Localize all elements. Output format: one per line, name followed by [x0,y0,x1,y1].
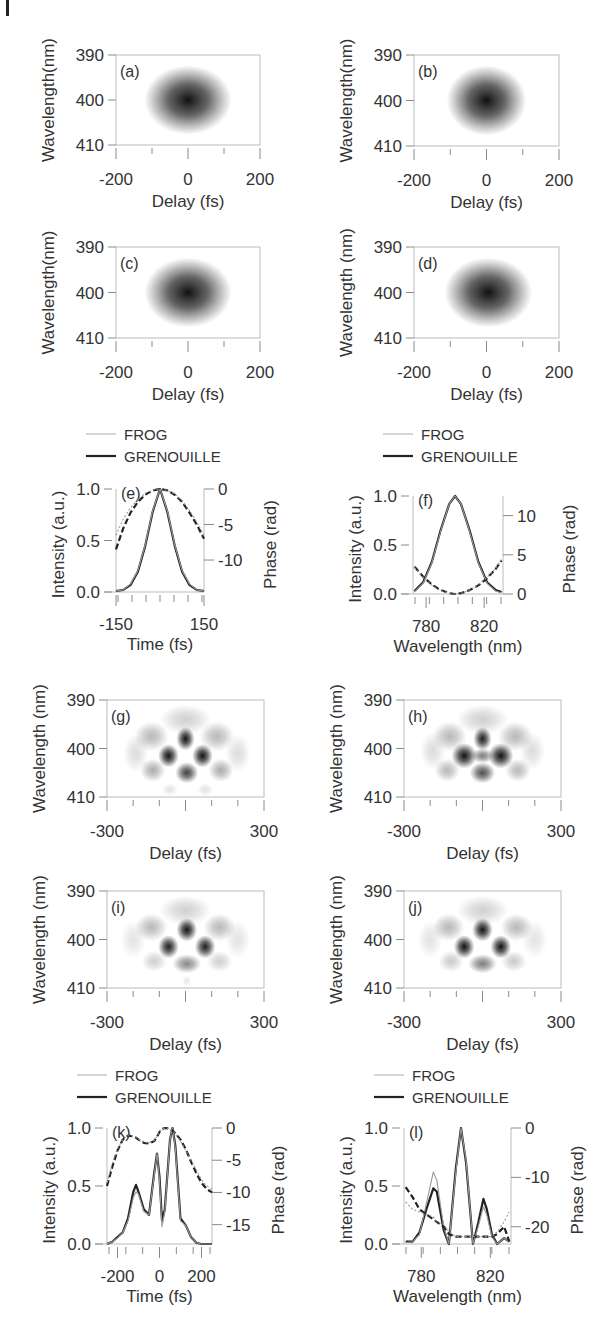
y-tick-label: 410 [76,329,104,348]
y-tick-label: 0.0 [67,1235,91,1254]
y-right-axis-label: Phase (rad) [560,505,579,594]
y-axis-label: Wavelength (nm) [327,875,346,1004]
figure-canvas: 390400410-2000200Delay (fs)Wavelength(nm… [0,0,608,1327]
x-tick-label: 300 [250,822,278,841]
y-tick-label: 1.0 [373,487,397,506]
y-axis-label: Wavelength (nm) [327,684,346,813]
panel-i: 390400410-300300Delay (fs)Wavelength (nm… [30,875,278,1054]
y-tick-label: 400 [364,931,392,950]
heatmap-j [418,895,548,973]
y-tick-label: 390 [374,46,402,65]
x-tick-label: 0 [183,363,192,382]
panel-f: FROGGRENOUILLE0.00.51.00510780820Wavelen… [346,426,579,656]
y-right-tick-label: 0 [218,480,227,499]
panel-d: 390400410-2000200Delay (fs)Wavelength (n… [337,228,573,404]
series-frog-intensity [406,1128,510,1244]
panel-k: FROGGRENOUILLE0.00.51.00-5-10-15-2000200… [40,1067,288,1306]
x-tick-label: 820 [476,1267,504,1286]
panel-e: FROGGRENOUILLE0.00.51.00-5-10-150150Time… [49,426,280,654]
y-tick-label: 1.0 [364,1119,388,1138]
y-tick-label: 0.5 [67,1177,91,1196]
y-tick-label: 400 [67,931,95,950]
x-axis-label: Time (fs) [126,1287,192,1306]
x-tick-label: -200 [99,170,133,189]
y-axis-label: Wavelength(nm) [39,38,58,162]
panel-label: (g) [111,708,131,725]
y-tick-label: 400 [76,91,104,110]
x-axis-label: Wavelength (nm) [393,1287,522,1306]
y-axis-label: Wavelength (nm) [30,875,49,1004]
y-right-axis-label: Phase (rad) [568,1146,587,1235]
series-frog-intensity [116,489,204,591]
y-tick-label: 390 [67,691,95,710]
y-tick-label: 400 [67,740,95,759]
legend-label-grenouille: GRENOUILLE [412,1089,509,1106]
y-right-tick-label: -20 [525,1218,550,1237]
legend-label-frog: FROG [421,426,464,443]
panel-label: (f) [418,492,433,509]
x-tick-label: 780 [407,1267,435,1286]
series-grenouille-phase [406,1187,510,1241]
x-tick-label: -300 [387,822,421,841]
y-axis-label: Wavelength (nm) [337,228,356,357]
x-axis-label: Delay (fs) [446,844,519,863]
y-axis-label: Intensity (a.u.) [346,495,365,603]
panel-label: (a) [120,63,140,80]
x-tick-label: -300 [387,1013,421,1032]
x-axis-label: Delay (fs) [152,385,225,404]
y-right-tick-label: 0 [517,585,526,604]
y-tick-label: 1.0 [76,480,100,499]
x-tick-label: 0 [482,363,491,382]
y-tick-label: 0.5 [76,532,100,551]
y-right-tick-label: -5 [218,516,233,535]
y-tick-label: 0.0 [373,585,397,604]
series-grenouille-intensity [116,489,204,591]
x-axis-label: Time (fs) [127,635,193,654]
x-axis-label: Delay (fs) [149,844,222,863]
x-axis-label: Delay (fs) [450,193,523,212]
heatmap-a [144,65,231,134]
panel-label: (i) [111,899,125,916]
y-tick-label: 390 [364,882,392,901]
x-tick-label: -200 [397,171,431,190]
y-tick-label: 410 [67,788,95,807]
heatmap-i [121,895,251,986]
x-axis-label: Delay (fs) [446,1035,519,1054]
series-frog-intensity [107,1128,212,1244]
y-tick-label: 400 [374,92,402,111]
y-tick-label: 410 [374,329,402,348]
heatmap-d [444,257,532,327]
y-tick-label: 410 [374,137,402,156]
x-tick-label: -200 [397,363,431,382]
x-tick-label: -200 [99,363,133,382]
legend-label-frog: FROG [124,426,167,443]
x-tick-label: 0 [482,171,491,190]
x-tick-label: 300 [547,822,575,841]
x-tick-label: -300 [90,822,124,841]
legend-label-grenouille: GRENOUILLE [421,448,518,465]
y-tick-label: 390 [67,882,95,901]
y-axis-label: Intensity (a.u.) [40,1136,59,1244]
panel-label: (h) [408,708,428,725]
panel-h: 390400410-300300Delay (fs)Wavelength (nm… [327,684,575,863]
panel-label: (d) [418,255,438,272]
y-tick-label: 400 [76,284,104,303]
y-right-tick-label: 10 [517,507,536,526]
y-right-tick-label: 0 [226,1119,235,1138]
y-tick-label: 400 [364,740,392,759]
panel-label: (j) [408,899,422,916]
y-tick-label: 410 [76,136,104,155]
panel-b: 390400410-2000200Delay (fs)Wavelength(nm… [337,38,573,212]
x-tick-label: 300 [547,1013,575,1032]
y-right-tick-label: 0 [525,1119,534,1138]
heatmap-g [123,704,250,796]
series-grenouille-intensity [415,496,502,592]
x-tick-label: 200 [545,171,573,190]
y-tick-label: 0.5 [364,1177,388,1196]
y-tick-label: 390 [364,691,392,710]
y-axis-label: Intensity (a.u.) [337,1136,356,1244]
y-axis-label: Intensity (a.u.) [49,491,68,599]
panel-a: 390400410-2000200Delay (fs)Wavelength(nm… [39,38,274,211]
y-right-axis-label: Phase (rad) [261,500,280,589]
y-tick-label: 390 [374,238,402,257]
